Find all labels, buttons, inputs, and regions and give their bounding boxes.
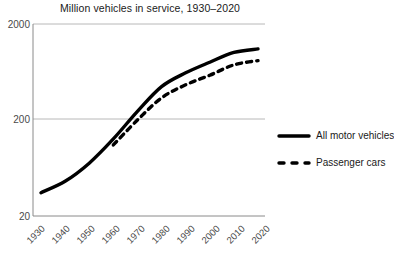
y-tick-label-2000: 2000 (0, 19, 30, 30)
y-tick-label-200: 200 (0, 114, 30, 125)
legend-label-all-motor-vehicles: All motor vehicles (316, 130, 394, 141)
legend (279, 136, 309, 163)
gridlines (33, 24, 265, 119)
legend-label-passenger-cars: Passenger cars (316, 157, 385, 168)
y-tick-label-20: 20 (0, 211, 30, 222)
series-line-all-motor-vehicles (41, 49, 258, 193)
